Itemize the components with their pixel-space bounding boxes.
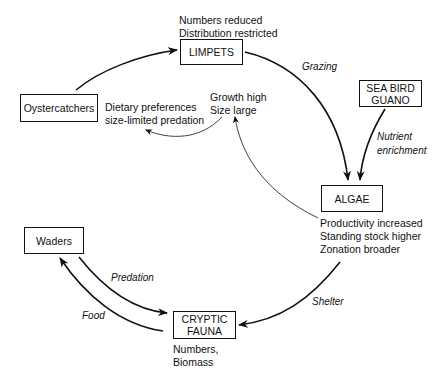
node-label: ALGAE (334, 193, 369, 205)
node-waders: Waders (24, 227, 84, 254)
node-oystercatchers: Oystercatchers (20, 94, 98, 122)
edge-label-line1: Nutrient (377, 130, 426, 144)
node-label-line2: FAUNA (187, 325, 222, 337)
node-label: Oystercatchers (24, 102, 95, 114)
note-dietary-preferences: Dietary preferences (105, 101, 204, 114)
note-numbers-reduced: Numbers reduced (179, 14, 278, 27)
node-algae: ALGAE (321, 185, 383, 212)
edge-label-line2: enrichment (377, 144, 426, 158)
note-biomass: Biomass (173, 356, 219, 369)
node-label: LIMPETS (189, 46, 234, 58)
algae-notes: Productivity increased Standing stock hi… (320, 217, 423, 256)
node-label-line2: GUANO (371, 94, 410, 106)
ecology-diagram: Numbers reduced Distribution restricted … (0, 0, 447, 383)
edge-label-food: Food (82, 310, 105, 321)
edge-label-predation: Predation (111, 272, 154, 283)
node-label: Waders (36, 235, 72, 247)
arrow-algae-to-growth (235, 117, 318, 218)
node-limpets: LIMPETS (180, 39, 243, 65)
note-standing-stock-higher: Standing stock higher (320, 230, 423, 243)
node-label-line1: CRYPTIC (182, 313, 228, 325)
limpets-notes: Numbers reduced Distribution restricted (179, 14, 278, 40)
edge-label-nutrient-enrichment: Nutrient enrichment (377, 130, 426, 158)
arrow-waders-to-cryptic (79, 257, 167, 313)
edge-label-grazing: Grazing (302, 61, 337, 72)
growth-notes: Growth high Size large (210, 91, 267, 117)
edge-label-shelter: Shelter (312, 296, 344, 307)
node-cryptic-fauna: CRYPTIC FAUNA (173, 311, 236, 339)
arrow-oystercatchers-to-limpets (76, 50, 177, 90)
cryptic-notes: Numbers, Biomass (173, 343, 219, 369)
note-size-limited-predation: size-limited predation (105, 114, 204, 127)
node-label-line1: SEA BIRD (366, 82, 414, 94)
arrow-cryptic-to-waders (60, 258, 163, 331)
arrow-algae-to-cryptic (239, 262, 340, 325)
note-zonation-broader: Zonation broader (320, 243, 423, 256)
note-productivity-increased: Productivity increased (320, 217, 423, 230)
node-sea-bird-guano: SEA BIRD GUANO (359, 80, 422, 107)
dietary-notes: Dietary preferences size-limited predati… (105, 101, 204, 127)
note-size-large: Size large (210, 104, 267, 117)
note-numbers: Numbers, (173, 343, 219, 356)
note-growth-high: Growth high (210, 91, 267, 104)
